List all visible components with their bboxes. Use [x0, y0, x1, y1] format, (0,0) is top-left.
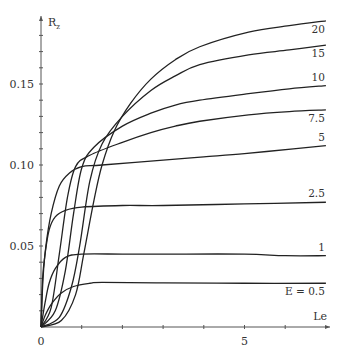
- y-tick-label: 0.10: [10, 159, 35, 172]
- series-label: 5: [318, 131, 325, 143]
- curve-e-0-5: [41, 282, 326, 327]
- y-axis-arrow-icon: [39, 16, 43, 21]
- rz-vs-le-chart: 050.050.100.15LeRz2015107.552.51E = 0.5: [0, 0, 342, 362]
- x-axis-label: Le: [313, 310, 327, 323]
- series-label: 20: [312, 23, 325, 35]
- y-axis-label: Rz: [48, 16, 60, 31]
- y-axis-label-sub: z: [56, 23, 60, 31]
- x-tick-label: 5: [241, 335, 248, 348]
- y-tick-label: 0.15: [10, 78, 35, 91]
- series-label: 10: [312, 71, 325, 83]
- labels: 050.050.100.15LeRz2015107.552.51E = 0.5: [10, 16, 328, 348]
- chart-container: 050.050.100.15LeRz2015107.552.51E = 0.5: [0, 0, 342, 362]
- curve-e-5: [41, 146, 326, 327]
- x-tick-label: 0: [38, 335, 45, 348]
- curve-e-20: [41, 21, 326, 327]
- series-label: 15: [312, 47, 325, 59]
- curves: [41, 21, 326, 327]
- series-label: E = 0.5: [285, 285, 325, 297]
- x-axis-arrow-icon: [325, 325, 330, 329]
- series-label: 1: [318, 241, 325, 253]
- y-tick-label: 0.05: [10, 240, 35, 253]
- series-label: 2.5: [308, 187, 325, 199]
- axes: [39, 16, 330, 329]
- series-label: 7.5: [308, 112, 325, 124]
- curve-e-1: [41, 254, 326, 327]
